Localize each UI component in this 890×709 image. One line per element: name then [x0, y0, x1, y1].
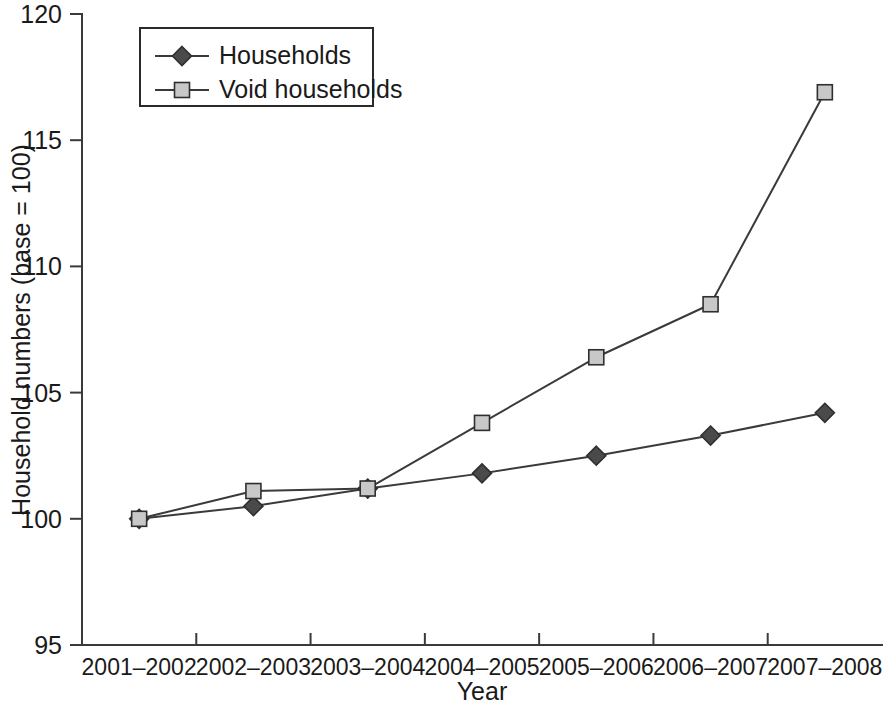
- x-tick-label: 2007–2008: [767, 654, 882, 680]
- data-point-marker: [817, 85, 832, 100]
- x-tick-label: 2003–2004: [310, 654, 425, 680]
- chart-background: [0, 0, 890, 709]
- legend-label: Households: [219, 41, 351, 69]
- y-tick-label: 95: [34, 631, 62, 659]
- data-point-marker: [589, 350, 604, 365]
- x-tick-label: 2001–2002: [82, 654, 197, 680]
- data-point-marker: [360, 481, 375, 496]
- line-chart: 95100105110115120 2001–20022002–20032003…: [0, 0, 890, 709]
- y-axis-title: Household numbers (base = 100): [7, 144, 35, 516]
- x-tick-label: 2006–2007: [653, 654, 768, 680]
- y-tick-label: 120: [20, 0, 62, 28]
- data-point-marker: [703, 297, 718, 312]
- x-tick-label: 2002–2003: [196, 654, 311, 680]
- chart-legend: HouseholdsVoid households: [140, 28, 402, 106]
- chart-canvas: 95100105110115120 2001–20022002–20032003…: [0, 0, 890, 709]
- x-tick-label: 2005–2006: [539, 654, 654, 680]
- x-axis-title: Year: [457, 677, 508, 705]
- legend-marker-sample: [175, 83, 190, 98]
- data-point-marker: [475, 415, 490, 430]
- data-point-marker: [246, 484, 261, 499]
- legend-label: Void households: [219, 75, 402, 103]
- data-point-marker: [132, 511, 147, 526]
